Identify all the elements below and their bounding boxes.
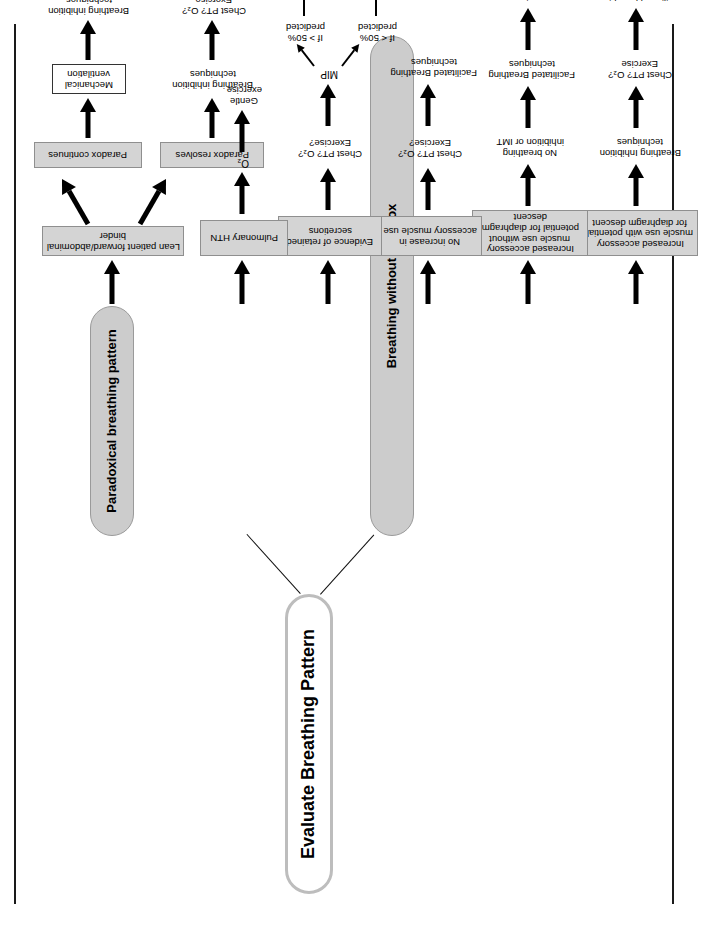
node-lean-patient-forward: Lean patient forward/abdominal binder [42, 226, 184, 256]
connector-title-to-paradoxical [246, 534, 300, 594]
node-increased-accessory-without-descent: Increased accessory muscle use without p… [472, 210, 588, 256]
arrow-mip-lt50-p4 [342, 44, 359, 66]
node-mip-p4: MIP [312, 64, 346, 84]
node-facilitated-breathing-techniques-p1: Facilitated breathing techniques [588, 0, 694, 6]
node-no-breathing-inhibition-or-imt: No breathing inhibition or IMT [486, 132, 574, 162]
arrow-mip-gt50-p4 [297, 44, 314, 66]
node-o2: O₂ [230, 154, 256, 172]
node-paradox-continues: Paradox continues [34, 142, 142, 168]
node-increased-accessory-with-descent: Increased accessory muscle use with pote… [582, 210, 698, 256]
node-facilitated-breathing-techniques-p2: Facilitated Breathing techniques [478, 54, 586, 84]
node-chest-pt-o2-exercise-p3: Chest PT? O₂? Exercise? [386, 130, 474, 166]
node-gentle-exercise: Gentle exercise [212, 80, 276, 110]
node-upper-extremity-support: Upper extremity Support? Body positionin… [470, 0, 594, 6]
node-chest-pt-o2-exercise-p1: Chest PT? O₂? Exercise [596, 54, 684, 84]
node-chest-pt-o2-exercise-res: Chest PT? O₂? Exercise [170, 0, 258, 20]
node-facilitated-breathing-techniques-p3: Facilitated Breathing techniques [380, 52, 488, 82]
node-no-increase-accessory-muscle-use: No increase in accessory muscle use [378, 216, 482, 256]
node-chest-pt-o2-exercise-p4: Chest PT? O₂? Exercise? [286, 130, 374, 166]
branch-pill-paradoxical: Paradoxical breathing pattern [90, 306, 134, 536]
node-pulmonary-htn: Pulmonary HTN [200, 220, 288, 256]
node-breathing-inhibition-techniques-cont: Breathing inhibition techniques [40, 0, 138, 20]
arrow-to-paradox-resolves [140, 179, 166, 224]
label-if-gt-50-p4: If > 50% predicted [272, 18, 338, 46]
node-mechanical-ventilation: Mechanical ventilation [52, 64, 126, 94]
node-breathing-inhibition-techniques-p1: Breathing Inhibition techniques [590, 132, 690, 162]
node-evidence-retained-secretions: Evidence of retained secretions [278, 216, 382, 256]
arrow-to-paradox-continues [62, 179, 88, 224]
branch-pill-without-paradox: Breathing without paradox [370, 36, 414, 536]
flowchart-title: Evaluate Breathing Pattern [285, 594, 333, 894]
connector-title-to-without-paradox [320, 535, 374, 595]
label-if-lt-50-p4: If < 50% predicted [344, 18, 410, 46]
